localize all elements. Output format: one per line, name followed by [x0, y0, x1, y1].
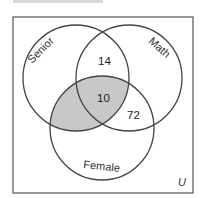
- region-senior-math-value: 14: [98, 55, 111, 67]
- universe-label: U: [178, 176, 186, 188]
- region-math-female-value: 72: [127, 109, 140, 121]
- region-all-three-value: 10: [97, 92, 110, 104]
- venn-diagram: Senior Math Female U 14 10 72: [0, 0, 203, 198]
